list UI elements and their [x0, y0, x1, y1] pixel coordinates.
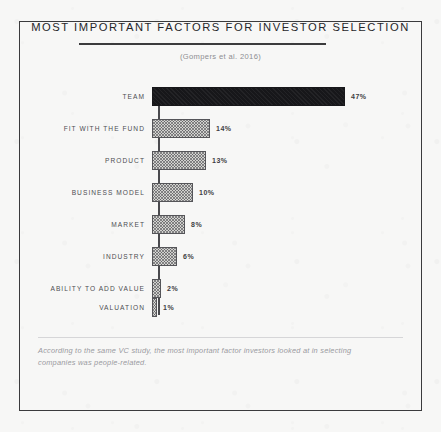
chart-frame [19, 21, 422, 411]
